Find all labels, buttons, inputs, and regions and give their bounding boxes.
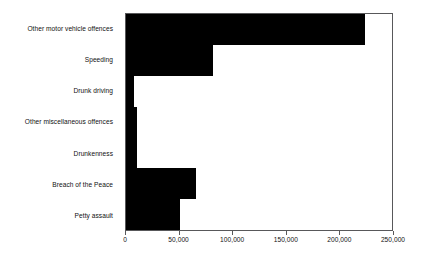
x-axis-tick bbox=[286, 231, 287, 235]
x-axis-tick bbox=[125, 231, 126, 235]
bar-row bbox=[126, 107, 392, 138]
x-axis-tick bbox=[393, 231, 394, 235]
bar-row bbox=[126, 199, 392, 230]
y-axis-tick-label: Speeding bbox=[0, 44, 118, 75]
x-axis-tick bbox=[232, 231, 233, 235]
x-axis-tick bbox=[339, 231, 340, 235]
bar-row bbox=[126, 76, 392, 107]
x-axis-tick-label: 150,000 bbox=[274, 236, 298, 243]
bar bbox=[126, 76, 134, 107]
bar bbox=[126, 45, 213, 76]
bar bbox=[126, 137, 137, 168]
x-axis-tick-label: 100,000 bbox=[220, 236, 244, 243]
bar bbox=[126, 168, 196, 199]
bar-row bbox=[126, 137, 392, 168]
x-axis-tick-label: 250,000 bbox=[381, 236, 405, 243]
y-axis-tick-label: Drunk driving bbox=[0, 75, 118, 106]
y-axis-tick-label: Breach of the Peace bbox=[0, 169, 118, 200]
bar bbox=[126, 14, 365, 45]
bar-row bbox=[126, 168, 392, 199]
x-axis-tick-labels: 050,000100,000150,000200,000250,000 bbox=[0, 236, 439, 250]
x-axis-tick-label: 0 bbox=[123, 236, 127, 243]
x-axis-tick-label: 50,000 bbox=[168, 236, 188, 243]
y-axis-tick-label: Other motor vehicle offences bbox=[0, 13, 118, 44]
x-axis-tick bbox=[179, 231, 180, 235]
x-axis-tick-label: 200,000 bbox=[327, 236, 351, 243]
bar bbox=[126, 199, 180, 230]
bars-layer bbox=[126, 14, 392, 230]
bar-row bbox=[126, 45, 392, 76]
plot-area bbox=[125, 13, 393, 231]
bar-row bbox=[126, 14, 392, 45]
y-axis-tick-label: Petty assault bbox=[0, 200, 118, 231]
y-axis-tick-label: Drunkenness bbox=[0, 138, 118, 169]
bar bbox=[126, 107, 137, 138]
y-axis-tick-label: Other miscellaneous offences bbox=[0, 106, 118, 137]
bar-chart: Other motor vehicle offences Speeding Dr… bbox=[0, 0, 439, 268]
y-axis-category-labels: Other motor vehicle offences Speeding Dr… bbox=[0, 13, 118, 231]
